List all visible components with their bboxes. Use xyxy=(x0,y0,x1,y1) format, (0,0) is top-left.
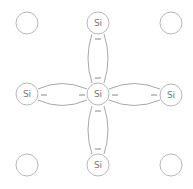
atom-label: Si xyxy=(23,89,31,99)
atom-label: Si xyxy=(167,90,175,100)
atom-right: Si xyxy=(160,84,182,106)
atom-corner-top-left xyxy=(16,12,38,34)
bond-center-left xyxy=(38,84,87,106)
atom-left: Si xyxy=(16,83,38,105)
atom-top: Si xyxy=(87,12,109,34)
atom-label: Si xyxy=(94,18,102,28)
atom-center: Si xyxy=(87,83,109,105)
atom-corner-bottom-right xyxy=(160,154,182,176)
atom-label: Si xyxy=(94,89,102,99)
atom-corner-top-right xyxy=(160,12,182,34)
atom-corner-bottom-left xyxy=(16,154,38,176)
bond-center-bottom xyxy=(88,106,108,154)
atom-label: Si xyxy=(94,160,102,170)
bond-center-top xyxy=(88,34,108,83)
atom-bottom: Si xyxy=(87,154,109,176)
bond-center-right xyxy=(109,84,160,106)
silicon-lattice-diagram: Si Si Si Si Si xyxy=(0,0,193,189)
